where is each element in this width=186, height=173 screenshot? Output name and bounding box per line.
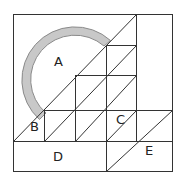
- label-e: E: [145, 143, 153, 158]
- label-d: D: [53, 149, 63, 164]
- geometry-diagram: A B C D E: [0, 0, 186, 173]
- label-c: C: [116, 112, 125, 127]
- arc-ring: [22, 27, 111, 120]
- label-a: A: [54, 54, 63, 69]
- label-b: B: [30, 119, 39, 134]
